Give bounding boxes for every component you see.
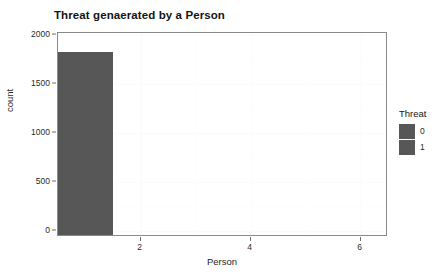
y-axis-tick-label: 1500 [31, 78, 50, 88]
legend-swatch [399, 124, 415, 139]
x-axis-tick-mark [360, 237, 361, 241]
y-axis-tick-label: 1000 [31, 127, 50, 137]
legend-swatch [399, 140, 415, 155]
plot-panel [57, 32, 387, 236]
x-axis-title: Person [57, 256, 387, 267]
legend: Threat 01 [399, 108, 445, 155]
legend-item[interactable]: 0 [399, 123, 445, 139]
gridline-horizontal [58, 35, 386, 36]
gridline-vertical [361, 33, 362, 235]
legend-title: Threat [399, 108, 445, 119]
legend-item[interactable]: 1 [399, 139, 445, 155]
y-axis-tick-mark [52, 34, 56, 35]
y-axis-tick-label: 0 [45, 225, 50, 235]
y-axis-tick-mark [52, 83, 56, 84]
x-axis-tick-label: 2 [137, 242, 142, 252]
gridline-vertical-minor [306, 33, 307, 235]
y-axis-tick-mark [52, 132, 56, 133]
legend-label: 0 [420, 126, 425, 136]
gridline-vertical-minor [196, 33, 197, 235]
chart-container: Threat genaerated by a Person count 0500… [0, 0, 447, 278]
y-axis-tick-mark [52, 181, 56, 182]
y-axis-tick-mark [52, 230, 56, 231]
y-axis-tick-labels: 0500100015002000 [0, 0, 50, 278]
x-axis-tick-mark [140, 237, 141, 241]
gridline-vertical [251, 33, 252, 235]
legend-items: 01 [399, 123, 445, 155]
y-axis-tick-label: 2000 [31, 29, 50, 39]
gridline-vertical [141, 33, 142, 235]
chart-title: Threat genaerated by a Person [54, 9, 225, 21]
y-axis-tick-label: 500 [36, 176, 50, 186]
legend-label: 1 [420, 142, 425, 152]
x-axis-tick-label: 4 [247, 242, 252, 252]
x-axis-tick-label: 6 [357, 242, 362, 252]
bar [58, 52, 113, 236]
x-axis-tick-mark [250, 237, 251, 241]
